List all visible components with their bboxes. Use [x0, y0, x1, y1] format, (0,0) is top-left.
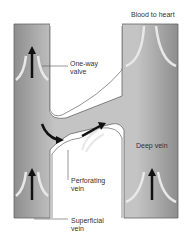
label-one-way-valve-line2: valve [70, 68, 98, 76]
label-superficial-vein: Superficial vein [71, 217, 104, 233]
label-one-way-valve: One-way valve [70, 60, 98, 76]
label-perforating-vein-line2: vein [71, 185, 105, 193]
vein-diagram [0, 0, 191, 244]
label-one-way-valve-line1: One-way [70, 60, 98, 68]
label-blood-to-heart: Blood to heart [131, 11, 175, 19]
label-perforating-vein: Perforating vein [71, 177, 105, 193]
label-superficial-vein-line2: vein [71, 225, 104, 233]
gap-bottom [52, 132, 122, 218]
label-deep-vein: Deep vein [136, 142, 168, 150]
label-perforating-vein-line1: Perforating [71, 177, 105, 185]
label-superficial-vein-line1: Superficial [71, 217, 104, 225]
